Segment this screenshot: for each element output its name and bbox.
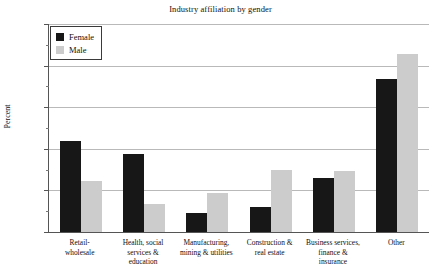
gridline-40 [49, 66, 429, 67]
bar-female[interactable] [376, 79, 397, 233]
bar-male[interactable] [144, 204, 165, 232]
legend-label: Male [69, 45, 86, 55]
gridline-50 [49, 24, 429, 25]
y-minor-tick-45 [46, 45, 49, 46]
y-minor-tick-35 [46, 86, 49, 87]
y-axis-title: Percent [3, 87, 12, 147]
y-minor-tick-25 [46, 128, 49, 129]
chart-legend: FemaleMale [50, 26, 102, 60]
y-tick-0 [44, 232, 49, 233]
bar-male[interactable] [397, 54, 418, 232]
legend-item-female[interactable]: Female [56, 30, 94, 43]
legend-swatch-icon [56, 33, 64, 41]
y-tick-30 [44, 107, 49, 108]
bar-group [186, 24, 228, 232]
legend-swatch-icon [56, 46, 64, 54]
bar-female[interactable] [123, 154, 144, 232]
bar-group [123, 24, 165, 232]
y-tick-40 [44, 66, 49, 67]
legend-label: Female [69, 32, 94, 42]
gridline-0 [49, 232, 429, 233]
bar-group [313, 24, 355, 232]
bar-male[interactable] [271, 170, 292, 232]
gridline-10 [49, 190, 429, 191]
bar-female[interactable] [60, 141, 81, 232]
bar-male[interactable] [334, 171, 355, 232]
y-tick-50 [44, 24, 49, 25]
bar-female[interactable] [313, 178, 334, 232]
bar-female[interactable] [250, 207, 271, 232]
bar-group [250, 24, 292, 232]
y-minor-tick-15 [46, 170, 49, 171]
bar-chart: Industry affiliation by gender Percent 0… [0, 0, 441, 280]
plot-area [48, 24, 429, 232]
y-tick-20 [44, 149, 49, 150]
bar-group [376, 24, 418, 232]
gridline-30 [49, 107, 429, 108]
y-tick-10 [44, 190, 49, 191]
category-label-line: education [103, 257, 182, 267]
category-label-line: insurance [293, 257, 372, 267]
bar-male[interactable] [207, 193, 228, 232]
bar-female[interactable] [186, 213, 207, 232]
y-minor-tick-5 [46, 211, 49, 212]
gridline-20 [49, 149, 429, 150]
chart-title: Industry affiliation by gender [0, 4, 441, 14]
legend-item-male[interactable]: Male [56, 43, 94, 56]
category-label: Other [357, 238, 436, 248]
category-label-line: Other [357, 238, 436, 248]
category-label-line: finance & [293, 248, 372, 258]
bar-male[interactable] [81, 181, 102, 232]
